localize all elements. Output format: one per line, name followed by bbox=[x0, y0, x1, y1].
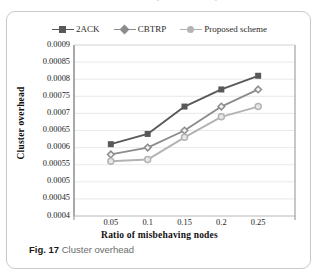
y-axis-tick-label: 0.0005 bbox=[24, 176, 70, 185]
y-axis-tick-label: 0.0009 bbox=[24, 40, 70, 49]
y-axis-tick-label: 0.00055 bbox=[24, 159, 70, 168]
figure-caption: Fig. 17 Cluster overhead bbox=[29, 244, 134, 255]
y-axis-tick-label: 0.00065 bbox=[24, 125, 70, 134]
figure-card: 2ACK CBTRP Proposed scheme Cluster overh… bbox=[6, 11, 311, 269]
y-axis-tick-label: 0.00045 bbox=[24, 193, 70, 202]
scan-artifact-glyph-left: ʔ bbox=[156, 0, 160, 3]
x-axis-title: Ratio of misbehaving nodes bbox=[7, 230, 312, 240]
scan-artifact-glyph-right: ʔ bbox=[214, 0, 218, 3]
x-axis-tick-label: 0.1 bbox=[128, 218, 168, 227]
x-axis-tick-label: 0.05 bbox=[91, 218, 131, 227]
y-axis-tick-label: 0.0004 bbox=[24, 211, 70, 220]
x-axis-tick-label: 0.15 bbox=[165, 218, 205, 227]
y-axis-tick-label: 0.0006 bbox=[24, 142, 70, 151]
y-axis-tick-label: 0.00085 bbox=[24, 57, 70, 66]
figure-caption-text: Cluster overhead bbox=[62, 244, 134, 255]
y-axis-tick-label: 0.0008 bbox=[24, 74, 70, 83]
x-axis-tick-label: 0.2 bbox=[201, 218, 241, 227]
figure-number: Fig. 17 bbox=[29, 244, 59, 255]
scan-artifact-strip: ʔ ʔ bbox=[0, 0, 318, 9]
chart-plot-area: Cluster overhead Ratio of misbehaving no… bbox=[7, 12, 312, 270]
x-axis-tick-label: 0.25 bbox=[238, 218, 278, 227]
y-axis-tick-label: 0.00075 bbox=[24, 91, 70, 100]
y-axis-tick-label: 0.0007 bbox=[24, 108, 70, 117]
